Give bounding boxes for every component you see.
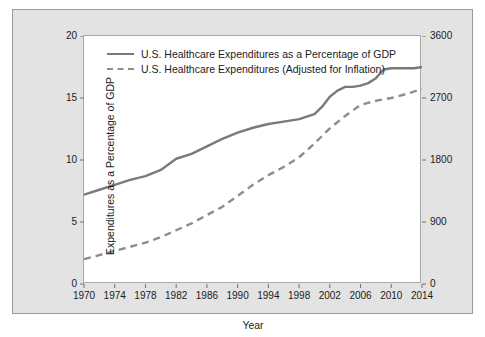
- y-axis-left-title: Expenditures as a Percentage of GDP: [104, 66, 116, 266]
- y-left-tick-label-0: 0: [44, 279, 77, 289]
- series-line-gdp-percentage: [84, 67, 422, 195]
- y-right-tick-label-900: 900: [430, 217, 464, 227]
- legend-swatch-solid-line-icon: [107, 48, 134, 59]
- y-right-tick-label-3600: 3600: [430, 31, 464, 41]
- series-line-inflation-adjusted: [84, 89, 422, 259]
- plot-area: U.S. Healthcare Expenditures as a Percen…: [83, 35, 421, 283]
- y-left-tick-label-15: 15: [44, 93, 77, 103]
- y-left-tick-label-5: 5: [44, 217, 77, 227]
- y-left-tick-label-10: 10: [44, 155, 77, 165]
- y-left-tick-label-20: 20: [44, 31, 77, 41]
- y-right-tick-label-2700: 2700: [430, 93, 464, 103]
- chart-legend: U.S. Healthcare Expenditures as a Percen…: [107, 46, 396, 76]
- legend-label-inflation-adjusted: U.S. Healthcare Expenditures (Adjusted f…: [141, 63, 385, 75]
- x-tick-label-2014: 2014: [402, 291, 442, 301]
- legend-item-gdp-percentage: U.S. Healthcare Expenditures as a Percen…: [107, 46, 396, 61]
- legend-label-gdp-percentage: U.S. Healthcare Expenditures as a Percen…: [141, 48, 396, 60]
- figure-caption-sliver: [14, 325, 314, 335]
- figure-container: U.S. Healthcare Expenditures as a Percen…: [0, 0, 485, 337]
- y-right-tick-label-0: 0: [430, 279, 464, 289]
- y-right-tick-label-1800: 1800: [430, 155, 464, 165]
- chart-panel: U.S. Healthcare Expenditures as a Percen…: [12, 9, 473, 314]
- legend-item-inflation-adjusted: U.S. Healthcare Expenditures (Adjusted f…: [107, 61, 396, 76]
